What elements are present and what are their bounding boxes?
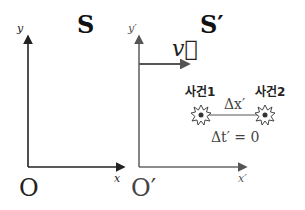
frame-s-prime-y-label: y′ [128,22,137,35]
event-1-burst-icon [191,105,211,125]
frame-s-axes [28,36,124,167]
frame-s-prime-title: S′ [200,10,224,39]
separation-label: Δx′ [224,96,245,112]
event-2-label: 사건2 [255,82,285,99]
frame-s-prime-x-label: x′ [238,172,247,185]
frame-s-title: S [77,10,94,39]
frame-s-prime-origin-label: O′ [131,174,156,202]
time-difference-label: Δt′ = 0 [211,129,259,145]
event-2-burst-icon [255,105,275,125]
frame-s-origin-label: O [19,174,39,202]
event-1-label: 사건1 [185,82,215,99]
frame-s-y-label: y [17,22,23,35]
velocity-label: v⃗ [172,36,198,61]
frame-s-x-label: x [114,172,120,185]
